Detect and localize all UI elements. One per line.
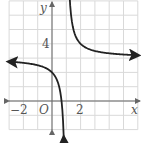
x-axis-label: x [131,103,138,117]
x-tick-label-2: 2 [76,103,84,117]
rational-function-graph: y x O −2 2 4 [0,0,153,143]
right-branch-curve [68,0,137,55]
x-tick-label-neg2: −2 [10,103,28,117]
function-curves [9,0,138,138]
left-branch-curve [9,62,64,138]
y-axis-label: y [39,1,47,15]
grid-lines [9,1,138,130]
origin-label: O [39,103,49,117]
y-tick-label-4: 4 [42,37,50,51]
axes [9,2,140,130]
